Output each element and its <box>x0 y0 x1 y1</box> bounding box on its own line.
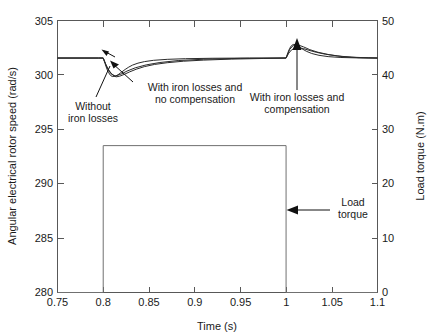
y-right-tick-label: 0 <box>382 286 388 298</box>
y-right-tick-label: 50 <box>382 15 394 27</box>
x-tick-label: 0.9 <box>187 296 202 308</box>
x-axis-title: Time (s) <box>197 320 237 332</box>
annotation-label: With iron losses and <box>250 91 345 103</box>
series-without-iron-losses <box>58 44 378 76</box>
y-left-axis-ticks <box>58 21 64 293</box>
y-right-tick-label: 10 <box>382 232 394 244</box>
y-right-tick-label: 20 <box>382 177 394 189</box>
annotation-label: Load <box>341 196 365 208</box>
y-left-tick-label: 290 <box>35 177 53 189</box>
y-left-tick-label: 300 <box>35 69 53 81</box>
y-left-tick-label: 285 <box>35 232 53 244</box>
plot-frame <box>58 21 378 293</box>
annotation-dip-pointer <box>102 50 116 58</box>
x-axis-ticks <box>58 21 378 293</box>
y-right-axis-tick-labels: 0 10 20 30 40 50 <box>382 15 394 299</box>
annotation-label: iron losses <box>68 112 118 124</box>
y-right-tick-label: 40 <box>382 69 394 81</box>
y-left-tick-label: 295 <box>35 123 53 135</box>
chart-figure: 0.75 0.8 0.85 0.9 0.95 1 1.05 1.1 280 28… <box>0 0 435 336</box>
y-left-tick-label: 280 <box>35 286 53 298</box>
y-left-axis-tick-labels: 280 285 290 295 300 305 <box>35 15 53 299</box>
series-load-torque <box>58 146 378 293</box>
x-tick-label: 1 <box>283 296 289 308</box>
y-left-axis-title: Angular electrical rotor speed (rad/s) <box>6 67 18 245</box>
annotation-no-compensation: With iron losses and no compensation <box>110 61 242 106</box>
y-right-axis-ticks <box>372 21 378 293</box>
annotation-label: Without <box>75 100 111 112</box>
annotation-load-torque: Load torque <box>287 196 369 220</box>
x-tick-label: 0.8 <box>96 296 111 308</box>
x-tick-label: 0.95 <box>230 296 251 308</box>
chart-svg: 0.75 0.8 0.85 0.9 0.95 1 1.05 1.1 280 28… <box>0 0 435 336</box>
x-tick-label: 0.85 <box>138 296 159 308</box>
series-with-iron-losses-compensation <box>58 45 378 76</box>
annotation-label: no compensation <box>155 93 235 105</box>
annotation-compensation: With iron losses and compensation <box>250 38 345 115</box>
annotation-label: With iron losses and <box>148 81 243 93</box>
y-right-tick-label: 30 <box>382 123 394 135</box>
annotation-label: compensation <box>264 103 330 115</box>
y-left-tick-label: 305 <box>35 15 53 27</box>
y-right-axis-title: Load torque (N.m) <box>414 111 426 200</box>
x-axis-tick-labels: 0.75 0.8 0.85 0.9 0.95 1 1.05 1.1 <box>47 296 385 308</box>
x-tick-label: 1.05 <box>321 296 342 308</box>
annotation-label: torque <box>338 208 368 220</box>
